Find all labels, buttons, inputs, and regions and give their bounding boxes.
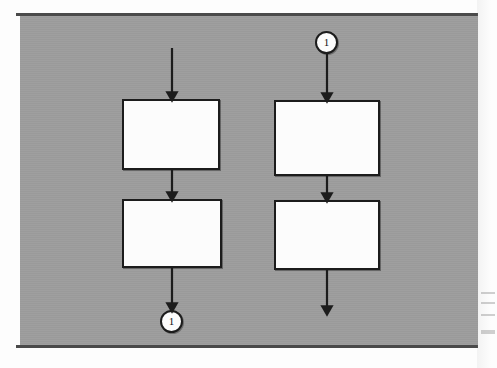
left-box-bottom	[122, 199, 222, 268]
scan-mark	[481, 330, 495, 334]
left-exit-connector: 1	[160, 310, 183, 333]
scan-edge-shading	[477, 0, 497, 368]
right-entry-connector: 1	[315, 31, 338, 54]
panel-top-rule	[16, 13, 478, 16]
figure-root: 1 1	[0, 0, 497, 368]
right-box-bottom	[274, 200, 380, 270]
right-box-top	[274, 100, 380, 176]
left-box-top	[122, 99, 220, 170]
scan-mark	[481, 302, 495, 304]
diagram-panel	[20, 13, 478, 348]
right-entry-connector-label: 1	[324, 37, 330, 48]
panel-bottom-rule	[16, 345, 478, 348]
scan-mark	[481, 314, 495, 316]
scan-mark	[481, 292, 495, 294]
left-exit-connector-label: 1	[169, 316, 175, 327]
